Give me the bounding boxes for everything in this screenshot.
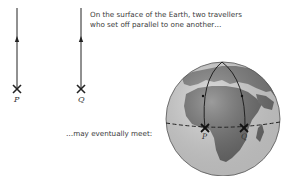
- label-p: P: [14, 95, 19, 104]
- arrow-up-icon: [15, 36, 19, 42]
- globe-label-q: Q: [241, 132, 247, 141]
- caption-line-1: On the surface of the Earth, two travell…: [90, 10, 242, 20]
- caption-meet: …may eventually meet:: [66, 129, 152, 139]
- traveller-p-path: [15, 8, 19, 88]
- globe: [166, 62, 282, 176]
- caption-line-2: who set off parallel to one another…: [90, 20, 222, 30]
- traveller-q-path: [79, 8, 83, 88]
- label-q: Q: [78, 95, 85, 104]
- globe-label-p: P: [202, 132, 207, 141]
- arrow-up-icon: [79, 36, 83, 42]
